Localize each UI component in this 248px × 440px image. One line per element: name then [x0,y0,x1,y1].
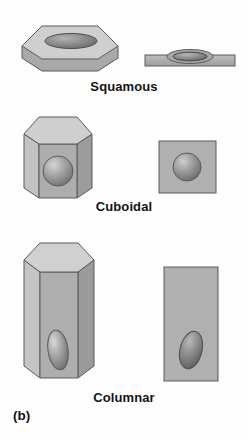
squamous-row: Squamous [0,0,248,100]
cuboidal-label: Cuboidal [0,199,248,214]
columnar-right-bevel [78,260,94,378]
cuboidal-right-bevel [77,134,92,198]
columnar-perspective-view [22,238,100,398]
cuboidal-section-nucleus [173,153,201,181]
epithelial-cell-shapes-figure: Squamous [0,0,248,440]
squamous-label: Squamous [0,79,248,94]
panel-label: (b) [13,408,30,423]
cuboidal-section-view [158,140,218,198]
columnar-label: Columnar [0,390,248,405]
squamous-nucleus [45,34,97,49]
squamous-section-view [144,42,236,74]
columnar-row: Columnar [0,238,248,413]
cuboidal-perspective-view [22,110,96,202]
cuboidal-row: Cuboidal [0,110,248,220]
squamous-perspective-view [18,14,126,80]
columnar-top-face [24,243,94,272]
cuboidal-left-bevel [24,134,39,198]
cuboidal-nucleus [43,156,73,186]
columnar-left-bevel [24,260,40,378]
squamous-section-nucleus [173,52,207,61]
columnar-section-view [163,266,221,384]
cuboidal-top-face [24,117,92,144]
